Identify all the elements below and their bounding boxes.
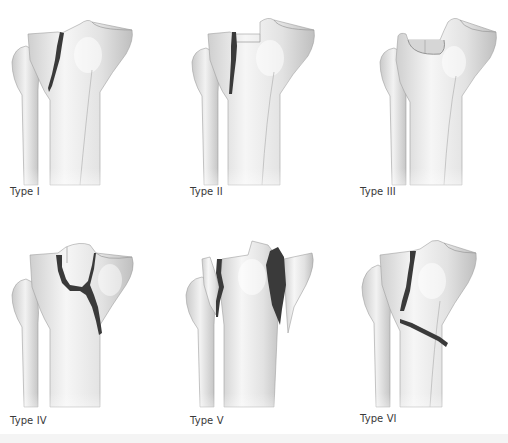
tibia-illustration-type-2 bbox=[170, 0, 339, 210]
tibia-illustration-type-1 bbox=[0, 0, 169, 210]
panel-type-3: Type III bbox=[340, 0, 508, 218]
panel-label: Type IV bbox=[10, 415, 47, 426]
tibia-illustration-type-5 bbox=[170, 225, 339, 435]
bottom-border bbox=[0, 434, 508, 443]
panel-type-2: Type II bbox=[170, 0, 339, 218]
panel-type-6: Type VI bbox=[340, 225, 508, 443]
panel-label: Type VI bbox=[360, 413, 397, 424]
panel-type-5: Type V bbox=[170, 225, 339, 443]
panel-label: Type II bbox=[190, 186, 223, 197]
panel-label: Type I bbox=[10, 186, 40, 197]
tibia-illustration-type-3 bbox=[340, 0, 508, 210]
panel-type-1: Type I bbox=[0, 0, 169, 218]
tibia-illustration-type-4 bbox=[0, 225, 169, 435]
panel-label: Type V bbox=[190, 415, 224, 426]
tibia-illustration-type-6 bbox=[340, 225, 508, 435]
panel-label: Type III bbox=[360, 186, 396, 197]
panel-type-4: Type IV bbox=[0, 225, 169, 443]
